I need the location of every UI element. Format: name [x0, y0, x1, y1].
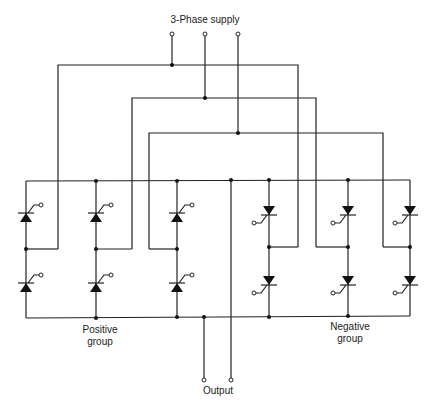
supply-terminal-1	[170, 32, 174, 36]
supply-terminal-3	[236, 32, 240, 36]
output-terminals	[202, 180, 233, 382]
bridge-circuit	[0, 0, 431, 410]
supply-terminal-2	[203, 32, 207, 36]
output-terminal-2	[229, 378, 233, 382]
dc-buses	[26, 178, 410, 320]
negative-group-thyristors	[252, 180, 418, 317]
supply-terminals	[170, 32, 240, 133]
phase-lines	[26, 63, 410, 249]
output-terminal-1	[202, 378, 206, 382]
